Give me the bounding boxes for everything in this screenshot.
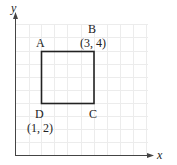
x-axis-arrow-icon <box>147 153 154 158</box>
vertex-b-coord: (3, 4) <box>80 36 106 50</box>
x-axis-label: x <box>156 148 163 162</box>
coordinate-plane: y x A B (3, 4) C D (1, 2) <box>0 0 177 165</box>
vertex-c-label: C <box>89 107 97 121</box>
vertex-a-label: A <box>36 36 45 50</box>
y-axis-label: y <box>10 1 17 15</box>
vertex-d-coord: (1, 2) <box>27 121 53 135</box>
vertex-d-label: D <box>35 107 44 121</box>
vertex-b-label: B <box>88 22 96 36</box>
axes <box>13 12 154 158</box>
